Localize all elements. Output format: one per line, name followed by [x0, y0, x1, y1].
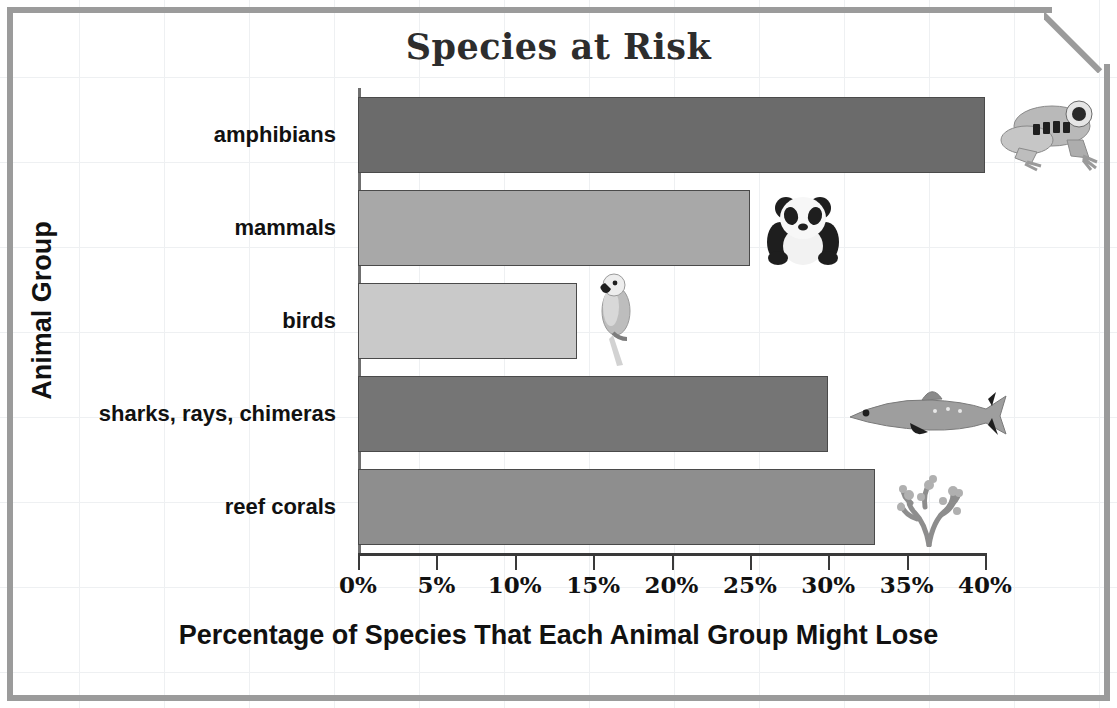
x-axis-tick	[515, 553, 517, 570]
x-axis-tick	[985, 553, 987, 570]
x-axis-tick-label: 20%	[627, 571, 717, 598]
x-axis-tick	[358, 553, 360, 570]
x-axis-tick	[828, 553, 830, 570]
bar-mammals[interactable]	[358, 190, 750, 266]
x-axis-tick-label: 10%	[470, 571, 560, 598]
plot-area: amphibiansmammalsbirdssharks, rays, chim…	[358, 88, 985, 553]
x-axis-tick-label: 30%	[783, 571, 873, 598]
x-axis-tick-label: 40%	[940, 571, 1030, 598]
chart-page: Species at Risk Animal Group Percentage …	[0, 0, 1117, 708]
x-axis-tick-label: 5%	[391, 571, 481, 598]
x-axis-tick-label: 35%	[862, 571, 952, 598]
x-axis-tick	[436, 553, 438, 570]
bar-row: sharks, rays, chimeras	[358, 376, 985, 452]
bar-reef-corals[interactable]	[358, 469, 875, 545]
coral-icon	[887, 467, 971, 547]
decorative-frame-right	[1104, 64, 1110, 701]
bar-amphibians[interactable]	[358, 97, 985, 173]
x-axis-tick	[593, 553, 595, 570]
category-label: reef corals	[6, 494, 336, 520]
parrot-icon	[589, 273, 641, 369]
bar-row: mammals	[358, 190, 985, 266]
shark-icon	[840, 385, 1010, 443]
bar-birds[interactable]	[358, 283, 577, 359]
x-axis-tick	[672, 553, 674, 570]
decorative-frame-top	[7, 7, 1052, 13]
category-label: amphibians	[6, 122, 336, 148]
bar-row: birds	[358, 283, 985, 359]
category-label: sharks, rays, chimeras	[6, 401, 336, 427]
x-axis-tick-label: 15%	[548, 571, 638, 598]
bar-sharks-rays-chimeras[interactable]	[358, 376, 828, 452]
category-label: birds	[6, 308, 336, 334]
x-axis-tick	[907, 553, 909, 570]
category-label: mammals	[6, 215, 336, 241]
x-axis-tick-label: 25%	[705, 571, 795, 598]
chart-title: Species at Risk	[0, 26, 1117, 67]
bar-row: amphibians	[358, 97, 985, 173]
x-axis-tick-label: 0%	[313, 571, 403, 598]
x-axis-title: Percentage of Species That Each Animal G…	[0, 620, 1117, 651]
frog-icon	[997, 96, 1102, 174]
x-axis-tick	[750, 553, 752, 570]
bar-row: reef corals	[358, 469, 985, 545]
panda-icon	[762, 190, 844, 266]
